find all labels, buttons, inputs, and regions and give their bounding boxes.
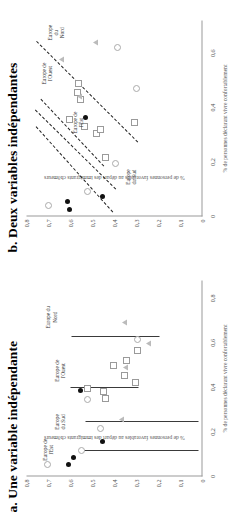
data-point-marker [109, 361, 116, 368]
data-point-marker [131, 379, 138, 386]
data-point-marker [77, 388, 82, 393]
panel-a: a. Une variable indépendante % de person… [0, 260, 249, 520]
group-interval-line [85, 421, 197, 422]
data-point-marker [102, 154, 109, 161]
group-interval-line [71, 335, 159, 336]
data-point-marker [59, 56, 64, 62]
data-point-marker [99, 439, 104, 444]
data-point-marker [43, 460, 50, 467]
panel-b: b. Deux variables indépendantes % de per… [0, 0, 249, 260]
y-tick-label: 0,5 [89, 479, 96, 491]
y-tick-label: 0,8 [23, 479, 30, 491]
group-label: Europe du Nord [46, 24, 65, 40]
data-point-marker [64, 199, 69, 204]
data-point-marker [74, 79, 81, 86]
data-point-marker [71, 455, 76, 460]
data-point-marker [130, 119, 137, 126]
data-point-marker [146, 340, 151, 346]
panel-a-y-axis [26, 475, 202, 476]
y-tick-label: 0,1 [177, 219, 184, 231]
y-tick-label: 0,5 [89, 219, 96, 231]
panel-a-x-axis-label: % de personnes déclarant vivre confortab… [221, 324, 227, 432]
data-point-marker [134, 347, 141, 354]
data-point-marker [123, 357, 130, 364]
data-point-marker [114, 44, 121, 51]
data-point-marker [134, 336, 141, 343]
x-tick-label: 0,4 [208, 383, 215, 391]
y-tick-label: 0,1 [177, 479, 184, 491]
group-label: Europe de l'Est [71, 111, 83, 133]
data-point-marker [118, 416, 123, 422]
data-point-marker [83, 385, 90, 392]
y-tick-label: 0,2 [155, 219, 162, 231]
y-tick-label: 0,6 [67, 479, 74, 491]
data-point-marker [120, 371, 127, 378]
data-point-marker [83, 188, 90, 195]
data-point-marker [112, 159, 119, 166]
group-label: Europe du Sud [54, 414, 66, 430]
x-tick-label: 0,8 [208, 294, 215, 302]
data-point-marker [45, 202, 52, 209]
y-tick-label: 0 [199, 219, 206, 231]
x-tick-label: 0,4 [208, 103, 215, 111]
panel-a-x-axis [201, 280, 202, 476]
group-label: Europe du Nord [45, 306, 57, 328]
data-point-marker [76, 93, 81, 99]
y-tick-label: 0,7 [45, 219, 52, 231]
panel-b-title: b. Deux variables indépendantes [4, 62, 20, 252]
data-point-marker [100, 388, 107, 395]
y-tick-label: 0,7 [45, 479, 52, 491]
x-tick-label: 0,2 [208, 158, 215, 166]
regression-line [35, 126, 113, 212]
panel-a-y-axis-label: % de personnes favorables au départ des … [44, 435, 185, 441]
panel-a-title: a. Une variable indépendante [4, 340, 20, 512]
panel-b-y-axis [26, 215, 202, 216]
y-tick-label: 0,8 [23, 219, 30, 231]
group-label: Europe du Sud [124, 169, 136, 185]
group-label: Europe de l'Ouest [41, 62, 53, 84]
y-tick-label: 0,4 [111, 219, 118, 231]
y-tick-label: 0 [199, 479, 206, 491]
x-tick-label: 0,6 [208, 339, 215, 347]
x-tick-label: 0 [208, 214, 215, 217]
y-tick-label: 0,3 [133, 219, 140, 231]
data-point-marker [96, 125, 103, 132]
panel-b-x-axis [201, 20, 202, 216]
group-label: Europe de l'Est [42, 438, 54, 460]
y-tick-label: 0,4 [111, 479, 118, 491]
data-point-marker [133, 85, 140, 92]
figure-page: b. Deux variables indépendantes % de per… [0, 0, 249, 520]
data-point-marker [93, 39, 98, 45]
x-tick-label: 0 [208, 474, 215, 477]
data-point-marker [99, 193, 104, 198]
panel-b-plot-area: % de personnes déclarant vivre confortab… [26, 20, 202, 216]
x-tick-label: 0,6 [208, 49, 215, 57]
x-tick-label: 0,2 [208, 428, 215, 436]
panel-b-x-axis-label: % de personnes déclarant vivre confortab… [221, 64, 227, 172]
data-point-marker [83, 396, 90, 403]
data-point-marker [96, 425, 103, 432]
y-tick-label: 0,6 [67, 219, 74, 231]
y-tick-label: 0,3 [133, 479, 140, 491]
y-tick-label: 0,2 [155, 479, 162, 491]
data-point-marker [65, 461, 70, 466]
data-point-marker [123, 364, 128, 370]
panel-a-plot-area: % de personnes déclarant vivre confortab… [26, 280, 202, 476]
data-point-marker [66, 207, 71, 212]
data-point-marker [102, 395, 109, 402]
data-point-marker [78, 447, 85, 454]
panel-b-y-axis-label: % de personnes favorables au départ des … [44, 175, 185, 181]
group-label: Europe de l'Ouest [54, 359, 66, 381]
group-interval-line [79, 450, 198, 451]
data-point-marker [121, 319, 126, 325]
